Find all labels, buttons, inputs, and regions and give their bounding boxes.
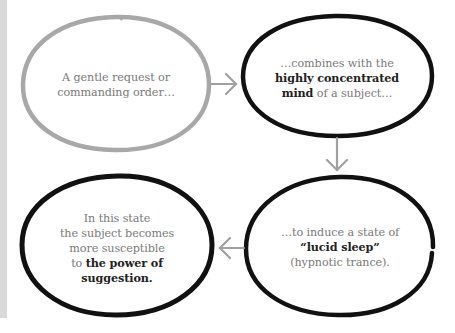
- node-2-line: highly concentrated: [247, 71, 427, 86]
- arrow-right-icon: [211, 74, 236, 94]
- node-4-line: the subject becomes: [27, 226, 207, 241]
- node-4-line: more susceptible: [27, 241, 207, 256]
- node-1-line: commanding order…: [26, 85, 206, 100]
- node-3-text: …to induce a state of “lucid sleep” (hyp…: [250, 225, 430, 270]
- node-4-text: In this state the subject becomes more s…: [27, 211, 207, 286]
- arrow-left-icon: [220, 238, 244, 258]
- node-1-line: A gentle request or: [26, 70, 206, 85]
- node-4-line: In this state: [27, 211, 207, 226]
- node-2-line: mind of a subject…: [247, 86, 427, 101]
- node-2-line: …combines with the: [247, 56, 427, 71]
- node-3-line: …to induce a state of: [250, 225, 430, 240]
- node-4-line: suggestion.: [27, 271, 207, 286]
- node-1-text: A gentle request or commanding order…: [26, 70, 206, 100]
- arrow-down-icon: [327, 138, 347, 170]
- node-4-line: to the power of: [27, 256, 207, 271]
- node-3-line: (hypnotic trance).: [250, 255, 430, 270]
- node-2-text: …combines with the highly concentrated m…: [247, 56, 427, 101]
- node-3-line: “lucid sleep”: [250, 240, 430, 255]
